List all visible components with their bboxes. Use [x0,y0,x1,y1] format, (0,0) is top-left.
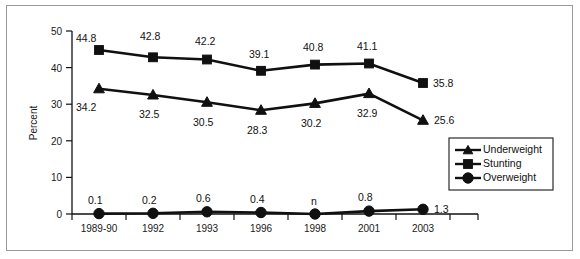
series-stunting: 44.8 42.8 42.2 39.1 40.8 41.1 35.8 [76,30,454,89]
circle-icon [463,173,473,183]
stunting-value-5: 41.1 [357,40,378,52]
x-tick-label-3: 1996 [250,223,273,234]
overweight-marker-6 [418,204,428,214]
y-tick-label-20: 20 [51,136,63,147]
underweight-value-3: 28.3 [247,124,268,136]
underweight-value-2: 30.5 [193,116,214,128]
overweight-value-2: 0.6 [196,192,211,204]
series-underweight: 34.2 32.5 30.5 28.3 30.2 32.9 25.6 [76,83,455,136]
underweight-value-6: 25.6 [434,114,455,126]
overweight-value-3: 0.4 [250,193,265,205]
y-tick-label-40: 40 [51,63,63,74]
legend-label-stunting: Stunting [483,157,522,169]
x-axis: 1989-90 1992 1993 1996 1998 2001 2003 [72,214,478,234]
stunting-value-2: 42.2 [195,35,216,47]
series-overweight: 0.1 0.2 0.6 0.4 n 0.8 1.3 [88,191,449,219]
underweight-value-4: 30.2 [301,117,322,129]
stunting-marker-5 [365,59,374,68]
stunting-marker-1 [149,53,158,62]
underweight-value-5: 32.9 [357,107,378,119]
x-tick-label-1: 1992 [142,223,165,234]
stunting-value-1: 42.8 [140,30,161,42]
y-axis: 50 40 30 20 10 0 Percent [28,26,72,220]
chart-figure: 50 40 30 20 10 0 Percent 1989-90 1992 [0,0,580,259]
stunting-value-4: 40.8 [303,41,324,53]
y-tick-label-10: 10 [51,172,63,183]
line-chart: 50 40 30 20 10 0 Percent 1989-90 1992 [0,0,580,259]
overweight-value-1: 0.2 [142,194,157,206]
stunting-marker-6 [419,79,428,88]
y-tick-label-30: 30 [51,99,63,110]
x-tick-label-6: 2003 [412,223,435,234]
legend-item-underweight[interactable]: Underweight [455,143,542,155]
stunting-value-0: 44.8 [76,32,97,44]
legend-label-underweight: Underweight [483,143,542,155]
overweight-value-5: 0.8 [358,191,373,203]
x-tick-label-4: 1998 [304,223,327,234]
stunting-marker-3 [257,66,266,75]
square-icon [464,160,473,169]
overweight-value-0: 0.1 [88,194,103,206]
legend-label-overweight: Overweight [483,171,536,183]
stunting-marker-2 [203,55,212,64]
y-tick-label-0: 0 [56,209,62,220]
overweight-marker-1 [148,208,158,218]
stunting-value-6: 35.8 [433,77,454,89]
y-axis-title: Percent [28,106,39,141]
overweight-marker-5 [364,206,374,216]
legend-item-overweight[interactable]: Overweight [455,171,536,183]
overweight-marker-4 [310,209,320,219]
stunting-value-3: 39.1 [249,48,270,60]
stunting-marker-4 [311,60,320,69]
underweight-value-1: 32.5 [139,108,160,120]
y-tick-label-50: 50 [51,26,63,37]
overweight-marker-2 [202,207,212,217]
x-tick-label-2: 1993 [196,223,219,234]
chart-legend: Underweight Stunting Overweight [449,138,553,190]
y-axis-ticks [66,31,72,214]
x-tick-label-0: 1989-90 [81,223,118,234]
underweight-marker-5 [364,88,375,98]
x-axis-ticks [72,214,478,220]
overweight-value-4: n [311,195,317,207]
overweight-value-6: 1.3 [434,203,449,215]
stunting-marker-0 [95,46,104,55]
overweight-marker-3 [256,207,266,217]
overweight-marker-0 [94,208,104,218]
x-tick-label-5: 2001 [358,223,381,234]
underweight-value-0: 34.2 [76,101,97,113]
